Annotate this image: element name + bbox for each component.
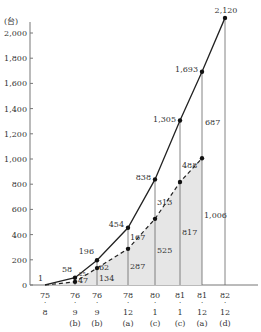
x-month-label: 8 — [42, 308, 47, 317]
y-tick-label: 1,600 — [4, 79, 27, 88]
gap-value-label: 167 — [130, 233, 145, 242]
svg-text:·: · — [154, 299, 156, 307]
upper-value-label: 196 — [79, 247, 94, 256]
gap-value-label: 313 — [157, 198, 172, 207]
fill-value-label: 1,006 — [204, 211, 227, 220]
x-source-label: (b) — [91, 319, 102, 328]
svg-text:·: · — [224, 299, 226, 307]
x-month-label: 9 — [94, 308, 99, 317]
y-axis-unit: (台) — [4, 16, 18, 26]
gap-value-label: 488 — [182, 161, 197, 170]
x-source-label: (d) — [219, 319, 230, 328]
svg-text:·: · — [96, 299, 98, 307]
fill-value-label: 525 — [157, 246, 172, 255]
y-tick-label: 200 — [12, 256, 27, 265]
y-tick-label: 1,000 — [4, 155, 27, 164]
upper-value-label: 2,120 — [215, 6, 238, 15]
y-tick-label: 1,400 — [4, 105, 27, 114]
x-month-label: 12 — [220, 308, 230, 317]
y-tick-label: 1,800 — [4, 54, 27, 63]
upper-value-label: 1 — [38, 274, 43, 283]
gap-value-label: 687 — [205, 118, 220, 127]
y-tick-label: 600 — [12, 205, 27, 214]
x-month-label: 1 — [177, 308, 182, 317]
x-source-label: (b) — [69, 319, 80, 328]
upper-value-label: 1,693 — [175, 65, 198, 74]
chart: (台)02004006008001,0001,2001,4001,6001,80… — [0, 0, 261, 332]
small-value-label: 25 — [79, 271, 86, 277]
fill-value-label: 817 — [182, 228, 197, 237]
x-source-label: (a) — [122, 319, 133, 328]
x-axis-labels: 75·876·9(b)76·9(b)78·12(a)80·1(c)81·1(c)… — [40, 291, 231, 328]
x-month-label: 12 — [123, 308, 133, 317]
svg-text:·: · — [201, 299, 203, 307]
svg-text:·: · — [44, 299, 46, 307]
fill-value-label: 47 — [78, 276, 88, 285]
upper-value-label: 1,305 — [153, 115, 176, 124]
x-source-label: (c) — [150, 319, 161, 328]
upper-value-label: 838 — [136, 173, 151, 182]
svg-text:·: · — [127, 299, 129, 307]
x-source-label: (a) — [196, 319, 207, 328]
x-month-label: 9 — [72, 308, 77, 317]
y-tick-label: 800 — [12, 180, 27, 189]
gap-value-label: 62 — [99, 263, 109, 272]
fill-value-label: 287 — [130, 262, 145, 271]
svg-text:·: · — [74, 299, 76, 307]
y-tick-label: 400 — [12, 231, 27, 240]
upper-value-label: 58 — [62, 265, 72, 274]
y-tick-label: 1,200 — [4, 130, 27, 139]
y-tick-label: 0 — [22, 281, 27, 290]
x-source-label: (c) — [175, 319, 186, 328]
upper-value-label: 454 — [109, 220, 124, 229]
x-month-label: 12 — [197, 308, 207, 317]
svg-text:·: · — [179, 299, 181, 307]
y-tick-label: 2,000 — [4, 29, 27, 38]
fill-value-label: 134 — [99, 274, 114, 283]
x-month-label: 1 — [152, 308, 157, 317]
